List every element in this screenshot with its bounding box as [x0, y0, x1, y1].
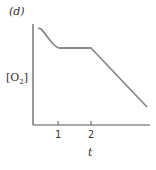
x-tick-label-1: 1 [55, 129, 61, 140]
chart-plot [0, 0, 156, 170]
x-tick-label-2: 2 [88, 129, 94, 140]
x-axis-label: t [88, 146, 92, 159]
o2-concentration-line [38, 28, 147, 107]
